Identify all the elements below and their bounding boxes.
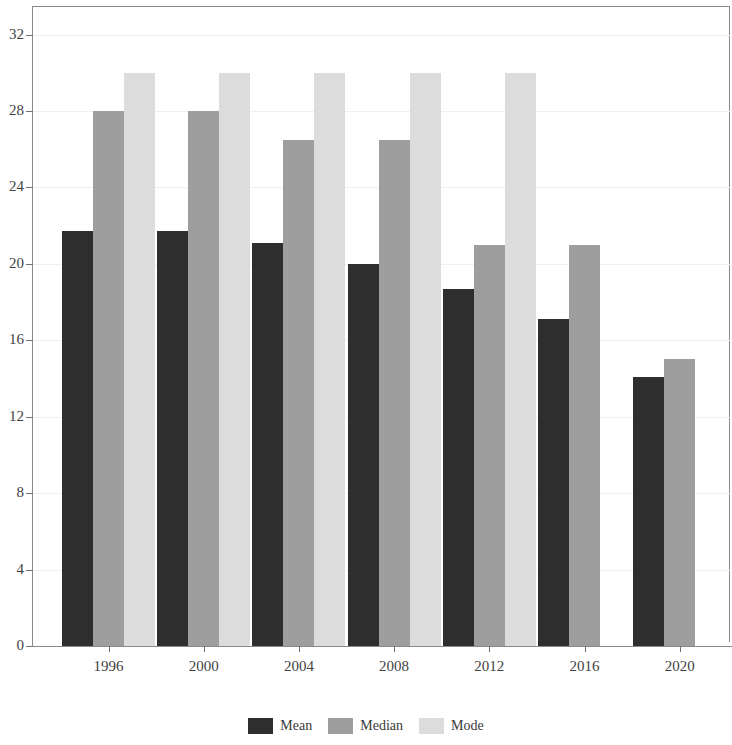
bar-2012-median xyxy=(474,245,505,646)
bar-2004-mode xyxy=(314,73,345,646)
bar-2020-mean xyxy=(633,377,664,646)
y-axis-label: 8 xyxy=(0,485,24,500)
y-axis-label: 32 xyxy=(0,27,24,42)
x-axis-line xyxy=(32,646,732,647)
bar-2000-mean xyxy=(157,231,188,646)
bar-2004-mean xyxy=(252,243,283,646)
legend-item-mode[interactable]: Mode xyxy=(419,718,484,734)
y-axis-label: 12 xyxy=(0,409,24,424)
y-axis-line xyxy=(32,6,33,646)
y-axis-tick xyxy=(26,493,33,494)
x-axis-tick xyxy=(299,646,300,652)
bar-2000-mode xyxy=(219,73,250,646)
y-axis-tick xyxy=(26,187,33,188)
y-axis-tick xyxy=(26,264,33,265)
bar-2000-median xyxy=(188,111,219,646)
x-axis-label-2020: 2020 xyxy=(665,659,695,674)
bars-layer xyxy=(32,6,730,642)
legend-item-median[interactable]: Median xyxy=(328,718,403,734)
x-axis-tick xyxy=(680,646,681,652)
legend-swatch-mean-icon xyxy=(248,718,273,734)
bar-2012-mean xyxy=(443,289,474,646)
y-axis-label: 20 xyxy=(0,256,24,271)
x-axis-label-2016: 2016 xyxy=(570,659,600,674)
y-axis-label: 24 xyxy=(0,179,24,194)
bar-2016-mean xyxy=(538,319,569,646)
bar-1996-median xyxy=(93,111,124,646)
x-axis-label-2008: 2008 xyxy=(379,659,409,674)
legend-swatch-mode-icon xyxy=(419,718,444,734)
y-axis-tick xyxy=(26,35,33,36)
y-axis-tick xyxy=(26,570,33,571)
x-axis-tick xyxy=(204,646,205,652)
x-axis-label-1996: 1996 xyxy=(94,659,124,674)
y-axis-tick xyxy=(26,111,33,112)
bar-2008-mode xyxy=(410,73,441,646)
bar-2008-median xyxy=(379,140,410,646)
bar-1996-mode xyxy=(124,73,155,646)
legend-item-mean[interactable]: Mean xyxy=(248,718,312,734)
y-axis-tick xyxy=(26,417,33,418)
x-axis-tick xyxy=(394,646,395,652)
x-axis-label-2000: 2000 xyxy=(189,659,219,674)
y-axis-label: 4 xyxy=(0,562,24,577)
legend-label-median: Median xyxy=(360,719,403,733)
y-axis-label: 0 xyxy=(0,638,24,653)
y-axis-tick xyxy=(26,340,33,341)
bar-chart: 048121620242832 199620002004200820122016… xyxy=(0,0,732,745)
bar-2016-median xyxy=(569,245,600,646)
x-axis-tick xyxy=(489,646,490,652)
bar-2004-median xyxy=(283,140,314,646)
x-axis-label-2004: 2004 xyxy=(284,659,314,674)
legend-label-mode: Mode xyxy=(451,719,484,733)
x-axis-tick xyxy=(585,646,586,652)
legend-label-mean: Mean xyxy=(280,719,312,733)
bar-2008-mean xyxy=(348,264,379,646)
x-axis-tick xyxy=(109,646,110,652)
bar-1996-mean xyxy=(62,231,93,646)
y-axis-label: 28 xyxy=(0,103,24,118)
legend-swatch-median-icon xyxy=(328,718,353,734)
bar-2012-mode xyxy=(505,73,536,646)
x-axis-label-2012: 2012 xyxy=(474,659,504,674)
bar-2020-median xyxy=(664,359,695,646)
y-axis-label: 16 xyxy=(0,332,24,347)
chart-legend: MeanMedianMode xyxy=(0,718,732,734)
